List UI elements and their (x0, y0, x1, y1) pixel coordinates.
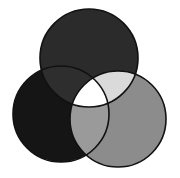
venn-diagram (0, 0, 180, 178)
